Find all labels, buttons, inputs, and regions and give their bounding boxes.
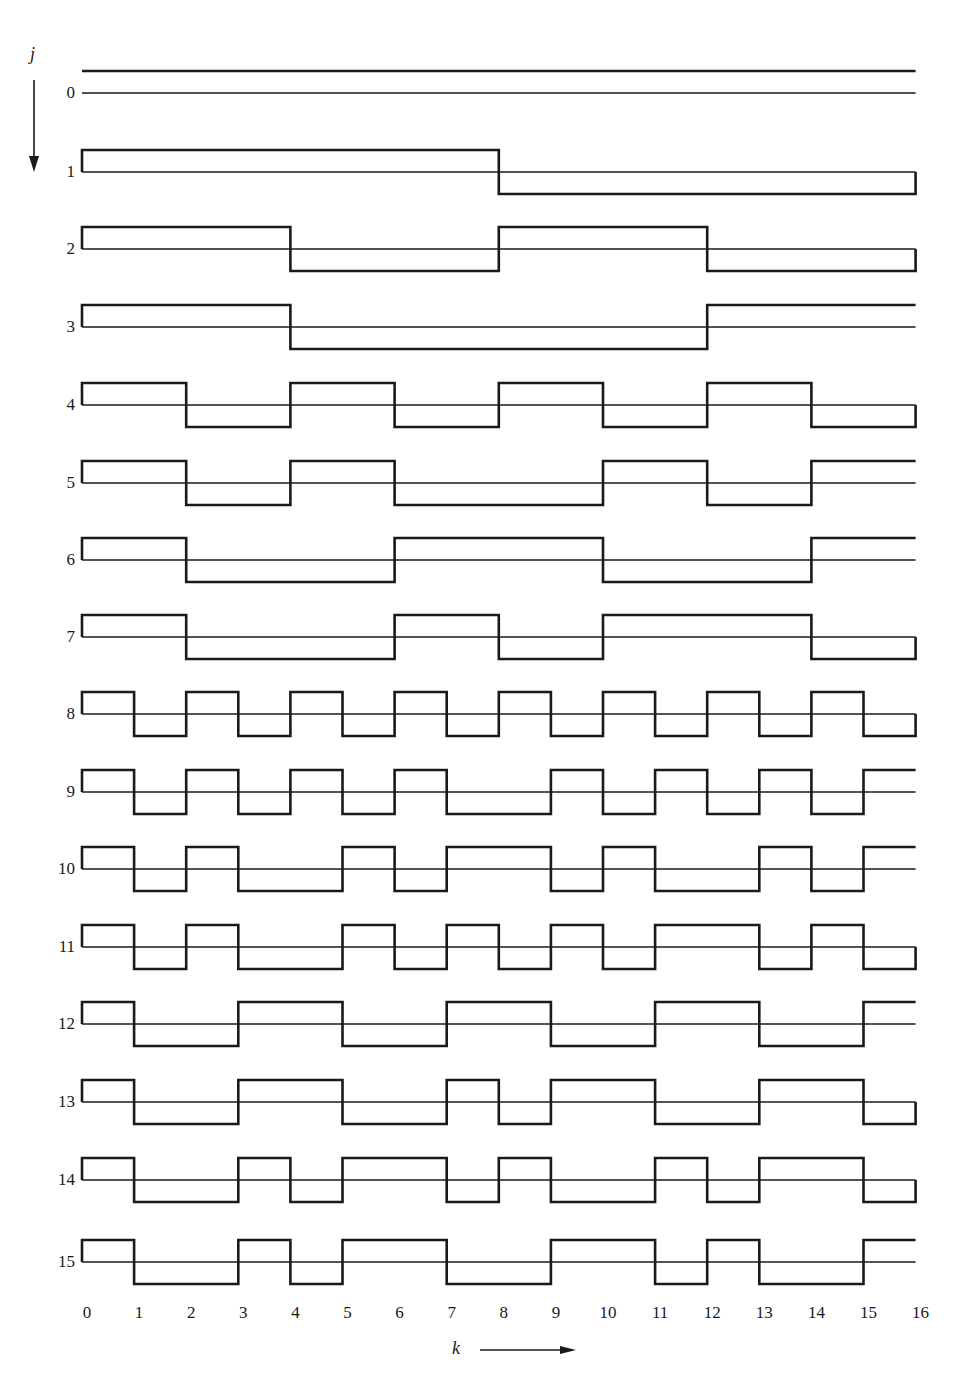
k-tick-11: 11	[645, 1303, 675, 1323]
walsh-row-12	[82, 1002, 916, 1046]
row-label-0: 0	[35, 83, 75, 103]
row-label-15: 15	[35, 1252, 75, 1272]
walsh-row-0	[82, 71, 916, 93]
row-label-7: 7	[35, 627, 75, 647]
row-label-10: 10	[35, 859, 75, 879]
row-label-14: 14	[35, 1170, 75, 1190]
k-tick-13: 13	[749, 1303, 779, 1323]
k-tick-5: 5	[333, 1303, 363, 1323]
k-tick-9: 9	[541, 1303, 571, 1323]
walsh-row-1	[82, 150, 916, 194]
walsh-function-diagram	[0, 0, 979, 1393]
k-tick-4: 4	[280, 1303, 310, 1323]
row-label-6: 6	[35, 550, 75, 570]
walsh-row-7	[82, 615, 916, 659]
row-label-9: 9	[35, 782, 75, 802]
k-tick-16: 16	[906, 1303, 936, 1323]
walsh-row-11	[82, 925, 916, 969]
walsh-row-8	[82, 692, 916, 736]
k-tick-14: 14	[801, 1303, 831, 1323]
row-label-8: 8	[35, 704, 75, 724]
k-tick-8: 8	[489, 1303, 519, 1323]
k-tick-2: 2	[176, 1303, 206, 1323]
walsh-row-2	[82, 227, 916, 271]
walsh-row-13	[82, 1080, 916, 1124]
waveforms-group	[82, 71, 916, 1284]
walsh-row-9	[82, 770, 916, 814]
row-label-3: 3	[35, 317, 75, 337]
k-tick-12: 12	[697, 1303, 727, 1323]
walsh-row-5	[82, 461, 916, 505]
walsh-row-10	[82, 847, 916, 891]
k-tick-3: 3	[228, 1303, 258, 1323]
k-tick-0: 0	[72, 1303, 102, 1323]
walsh-row-3	[82, 305, 916, 349]
row-label-5: 5	[35, 473, 75, 493]
k-tick-1: 1	[124, 1303, 154, 1323]
k-tick-6: 6	[385, 1303, 415, 1323]
row-label-11: 11	[35, 937, 75, 957]
j-axis-label: j	[30, 44, 35, 65]
row-label-12: 12	[35, 1014, 75, 1034]
row-label-4: 4	[35, 395, 75, 415]
walsh-row-6	[82, 538, 916, 582]
walsh-row-14	[82, 1158, 916, 1202]
row-label-13: 13	[35, 1092, 75, 1112]
k-axis-arrow-icon	[480, 1346, 576, 1354]
k-axis-label: k	[452, 1338, 460, 1359]
k-tick-7: 7	[437, 1303, 467, 1323]
walsh-row-15	[82, 1240, 916, 1284]
k-tick-10: 10	[593, 1303, 623, 1323]
row-label-1: 1	[35, 162, 75, 182]
walsh-row-4	[82, 383, 916, 427]
k-tick-15: 15	[854, 1303, 884, 1323]
row-label-2: 2	[35, 239, 75, 259]
